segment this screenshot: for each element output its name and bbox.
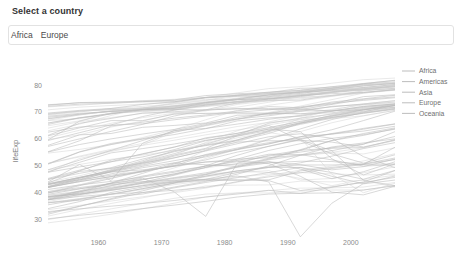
- legend-label-africa: Africa: [419, 67, 437, 74]
- selected-item-europe[interactable]: Europe: [40, 30, 69, 40]
- x-tick-1970: 1970: [154, 239, 170, 246]
- y-tick-80: 80: [34, 82, 42, 89]
- x-tick-1960: 1960: [91, 239, 107, 246]
- lifeexp-chart: 304050607080 19601970198019902000 lifeEx…: [0, 55, 470, 270]
- legend-label-europe: Europe: [419, 99, 441, 107]
- country-selectize-input[interactable]: [8, 25, 454, 45]
- y-tick-60: 60: [34, 135, 42, 142]
- y-tick-30: 30: [34, 216, 42, 223]
- y-axis-ticks: 304050607080: [34, 82, 42, 224]
- select-country-label: Select a country: [12, 6, 83, 16]
- legend-label-americas: Americas: [419, 78, 448, 85]
- chart-svg: 304050607080 19601970198019902000 lifeEx…: [0, 55, 470, 270]
- x-axis-ticks: 19601970198019902000: [91, 239, 359, 246]
- selected-items-container: Africa Europe: [10, 27, 69, 43]
- legend-label-oceania: Oceania: [419, 110, 445, 117]
- y-tick-40: 40: [34, 189, 42, 196]
- y-tick-50: 50: [34, 162, 42, 169]
- x-tick-2000: 2000: [343, 239, 359, 246]
- x-tick-1980: 1980: [217, 239, 233, 246]
- y-tick-70: 70: [34, 108, 42, 115]
- legend-label-asia: Asia: [419, 89, 432, 96]
- selected-item-africa[interactable]: Africa: [10, 30, 34, 40]
- series-lines: [48, 78, 395, 237]
- y-axis-title: lifeExp: [11, 140, 20, 163]
- chart-legend: AfricaAmericasAsiaEuropeOceania: [402, 67, 448, 116]
- x-tick-1990: 1990: [280, 239, 296, 246]
- series-line: [48, 160, 395, 215]
